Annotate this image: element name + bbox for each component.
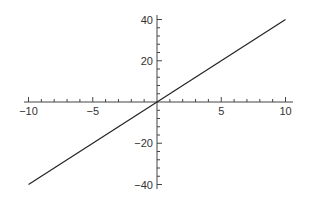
chart-canvas: −10−5510−40−202040 <box>0 0 310 200</box>
y-tick-label: 20 <box>141 55 153 67</box>
x-tick-label: 5 <box>218 105 224 117</box>
y-tick-label: −40 <box>134 179 153 191</box>
x-tick-label: −5 <box>86 105 99 117</box>
y-tick-label: 40 <box>141 14 153 26</box>
x-tick-label: 10 <box>279 105 291 117</box>
line-chart: −10−5510−40−202040 <box>0 0 310 200</box>
x-tick-label: −10 <box>19 105 38 117</box>
y-tick-label: −20 <box>134 137 153 149</box>
